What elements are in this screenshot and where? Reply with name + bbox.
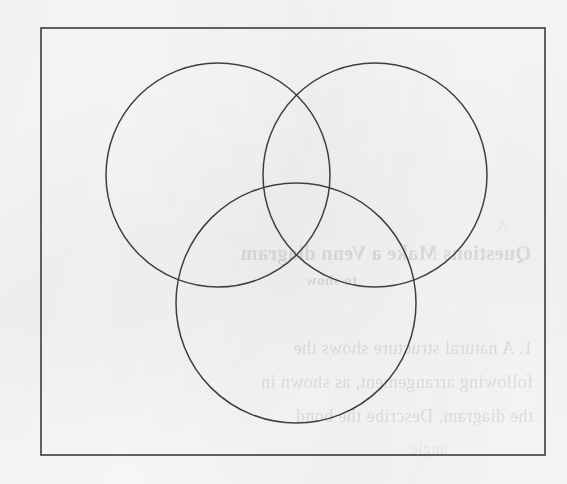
bottom-circle	[176, 183, 416, 423]
top-left-circle	[106, 63, 330, 287]
venn-diagram	[0, 0, 567, 484]
top-right-circle	[263, 63, 487, 287]
scanned-page: Questions Make a Venn diagram to show 1.…	[0, 0, 567, 484]
